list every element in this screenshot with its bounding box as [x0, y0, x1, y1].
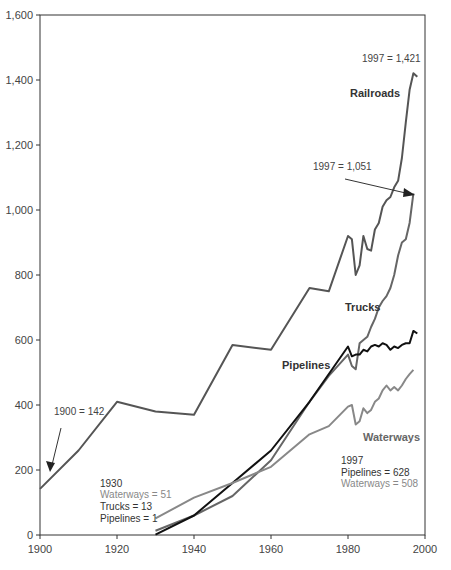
label-railroads: Railroads — [350, 87, 400, 99]
annotation-1930-pipelines: Pipelines = 1 — [100, 513, 158, 524]
arrowhead-icon — [46, 461, 55, 472]
annotation-railroads-1997: 1997 = 1,421 — [362, 53, 421, 64]
y-tick-label: 1,600 — [5, 9, 33, 21]
series-line-railroads — [40, 73, 417, 489]
y-tick-label: 1,200 — [5, 139, 33, 151]
annotation-trucks-1997: 1997 = 1,051 — [313, 161, 372, 172]
arrow-railroads-1900 — [52, 428, 61, 465]
series-line-waterways — [156, 370, 414, 519]
annotation-1930-year: 1930 — [100, 478, 123, 489]
label-pipelines: Pipelines — [282, 359, 330, 371]
x-tick-label: 1920 — [105, 543, 129, 555]
y-tick-label: 1,400 — [5, 74, 33, 86]
annotation-1997-waterways: Waterways = 508 — [341, 478, 419, 489]
annotation-1930-trucks: Trucks = 13 — [100, 501, 153, 512]
annotation-railroads-1900: 1900 = 142 — [54, 406, 105, 417]
annotation-1930-waterways: Waterways = 51 — [100, 489, 172, 500]
y-tick-label: 0 — [27, 529, 33, 541]
x-tick-label: 1980 — [336, 543, 360, 555]
y-tick-label: 1,000 — [5, 204, 33, 216]
y-tick-label: 600 — [15, 334, 33, 346]
x-tick-label: 2000 — [413, 543, 437, 555]
x-tick-label: 1960 — [259, 543, 283, 555]
label-waterways: Waterways — [363, 431, 420, 443]
annotation-1997-pipelines: Pipelines = 628 — [341, 467, 410, 478]
x-tick-label: 1900 — [28, 543, 52, 555]
annotation-1997-year: 1997 — [341, 455, 364, 466]
arrow-trucks-1997 — [345, 179, 410, 194]
y-tick-label: 200 — [15, 464, 33, 476]
y-tick-label: 800 — [15, 269, 33, 281]
y-tick-label: 400 — [15, 399, 33, 411]
x-tick-label: 1940 — [182, 543, 206, 555]
line-chart: 02004006008001,0001,2001,4001,6001900192… — [0, 0, 451, 570]
label-trucks: Trucks — [345, 301, 380, 313]
